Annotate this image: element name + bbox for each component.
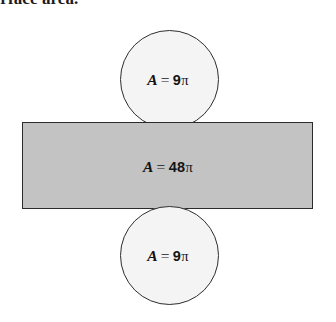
bottom-circle-label-value: 9	[173, 248, 181, 264]
top-circle-label-equals: =	[158, 71, 173, 88]
top-circle-label-variable: A	[147, 71, 158, 88]
bottom-circle-label-variable: A	[147, 247, 158, 264]
bottom-circle-label-equals: =	[158, 247, 173, 264]
bottom-circle-label: A=9π	[0, 247, 336, 265]
lateral-rectangle-label: A=48π	[0, 158, 336, 176]
top-circle-label: A=9π	[0, 71, 336, 89]
top-circle-label-value: 9	[173, 72, 181, 88]
bottom-circle-label-pi: π	[181, 248, 189, 264]
rectangle-label-variable: A	[143, 158, 154, 175]
figure-root: surface area. A=9π A=48π A=9π	[0, 0, 336, 322]
rectangle-label-pi: π	[185, 159, 193, 175]
rectangle-label-equals: =	[154, 158, 169, 175]
top-circle-label-pi: π	[181, 72, 189, 88]
rectangle-label-value: 48	[169, 159, 186, 175]
cylinder-net-diagram: A=9π A=48π A=9π	[0, 0, 336, 322]
